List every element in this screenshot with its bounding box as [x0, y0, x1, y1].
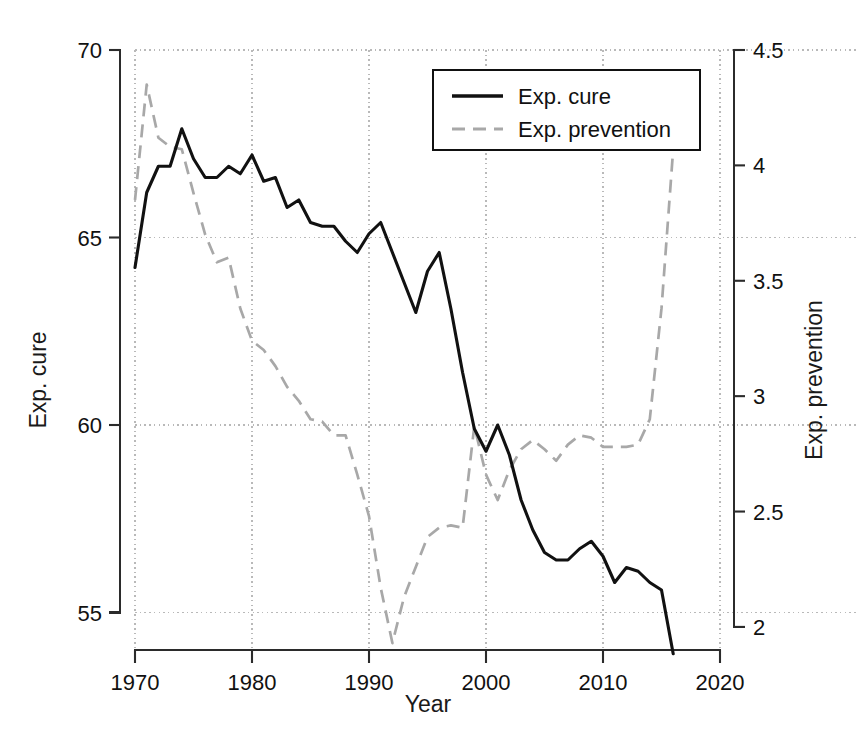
x-tick-2010: 2010	[579, 670, 628, 695]
y-left-tick-65: 65	[78, 226, 102, 251]
y-left-tick-60: 60	[78, 413, 102, 438]
legend-label-exp-prevention: Exp. prevention	[518, 117, 671, 142]
chart-background	[0, 0, 857, 751]
dual-axis-line-chart: 55606570 22.533.544.5 197019801990200020…	[0, 0, 857, 751]
y-axis-left-title: Exp. cure	[25, 331, 51, 428]
chart-legend: Exp. cure Exp. prevention	[433, 70, 700, 150]
y-right-tick-4.5: 4.5	[753, 38, 784, 63]
y-right-tick-2.5: 2.5	[753, 500, 784, 525]
y-left-tick-55: 55	[78, 601, 102, 626]
y-axis-right-title: Exp. prevention	[801, 300, 827, 460]
x-tick-1990: 1990	[345, 670, 394, 695]
x-axis-title: Year	[405, 691, 452, 717]
y-right-tick-2: 2	[753, 615, 765, 640]
y-left-tick-70: 70	[78, 38, 102, 63]
x-tick-2000: 2000	[462, 670, 511, 695]
x-tick-2020: 2020	[696, 670, 745, 695]
chart-figure: 55606570 22.533.544.5 197019801990200020…	[0, 0, 857, 751]
legend-label-exp-cure: Exp. cure	[518, 84, 611, 109]
x-tick-1980: 1980	[228, 670, 277, 695]
y-right-tick-3.5: 3.5	[753, 269, 784, 294]
x-tick-1970: 1970	[111, 670, 160, 695]
y-right-tick-4: 4	[753, 153, 765, 178]
y-right-tick-3: 3	[753, 384, 765, 409]
